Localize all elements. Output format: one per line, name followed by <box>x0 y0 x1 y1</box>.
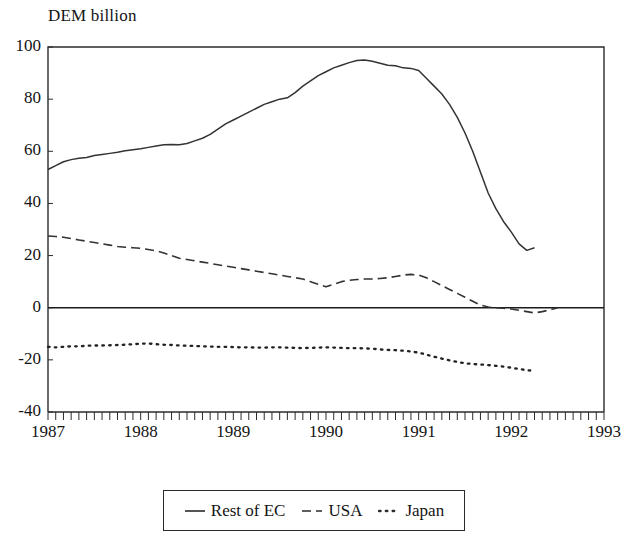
legend-swatch-dotted-icon <box>378 506 400 516</box>
y-axis-tick-label: 60 <box>0 140 41 160</box>
chart-legend: Rest of ECUSAJapan <box>163 490 465 531</box>
legend-label: Japan <box>405 501 444 521</box>
x-axis-tick-label: 1991 <box>384 422 454 442</box>
y-axis-tick-label: 20 <box>0 245 41 265</box>
y-axis-tick-label: 40 <box>0 192 41 212</box>
x-axis-tick-label: 1987 <box>13 422 83 442</box>
y-axis-tick-label: 80 <box>0 88 41 108</box>
chart-plot-area <box>0 0 633 539</box>
x-axis-tick-label: 1992 <box>476 422 546 442</box>
chart-figure: DEM billion 100806040200-20-40 198719881… <box>0 0 633 539</box>
legend-swatch-dashed-icon <box>301 506 323 516</box>
series-line-usa <box>48 236 558 313</box>
series-line-rest-of-ec <box>48 60 535 250</box>
x-axis-tick-label: 1993 <box>569 422 633 442</box>
y-axis-tick-label: 0 <box>0 297 41 317</box>
legend-swatch-solid-icon <box>184 506 206 516</box>
x-axis-tick-label: 1988 <box>106 422 176 442</box>
plot-frame <box>48 47 604 412</box>
y-axis-tick-label: 100 <box>0 36 41 56</box>
y-axis-tick-label: -40 <box>0 401 41 421</box>
legend-label: USA <box>328 501 362 521</box>
y-axis-tick-label: -20 <box>0 349 41 369</box>
series-line-japan <box>48 343 535 370</box>
legend-label: Rest of EC <box>211 501 286 521</box>
x-axis-tick-label: 1990 <box>291 422 361 442</box>
legend-entry: USA <box>301 501 362 521</box>
legend-entry: Japan <box>378 501 444 521</box>
x-axis-tick-label: 1989 <box>198 422 268 442</box>
legend-entry: Rest of EC <box>184 501 286 521</box>
